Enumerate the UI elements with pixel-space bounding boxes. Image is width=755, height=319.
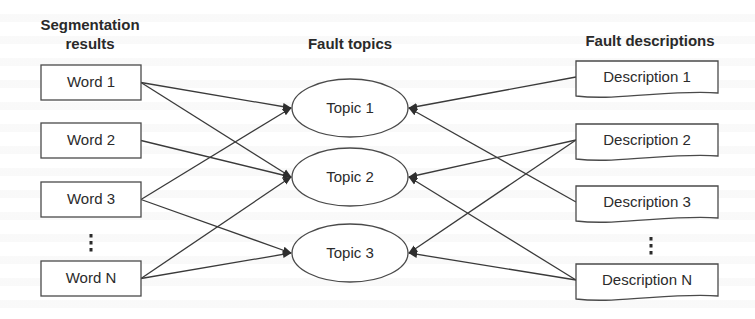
- description-node: Description 1: [576, 61, 718, 97]
- word-label: Word N: [66, 269, 117, 286]
- word-to-topic-edge: [141, 200, 291, 254]
- topic-label: Topic 2: [326, 168, 374, 185]
- description-to-topic-edge: [409, 77, 576, 108]
- topic-node: Topic 2: [292, 148, 408, 206]
- description-to-topic-edge: [409, 140, 576, 177]
- description-to-topic-edge: [409, 253, 576, 280]
- descriptions-group: Description 1Description 2Description 3D…: [576, 61, 718, 300]
- word-node: Word 3: [41, 182, 141, 217]
- word-ellipsis-icon: [90, 234, 93, 252]
- word-to-topic-edge: [141, 141, 291, 178]
- description-node: Description N: [576, 264, 718, 300]
- word-to-topic-edge: [141, 108, 291, 200]
- word-label: Word 1: [67, 73, 115, 90]
- word-node: Word 2: [41, 123, 141, 158]
- description-label: Description 2: [603, 131, 691, 148]
- topic-label: Topic 3: [326, 244, 374, 261]
- word-label: Word 2: [67, 131, 115, 148]
- word-to-topic-edge: [141, 83, 291, 178]
- description-label: Description N: [602, 271, 692, 288]
- word-to-topic-edge: [141, 177, 291, 279]
- topic-node: Topic 3: [292, 224, 408, 282]
- description-to-topic-edge: [409, 177, 576, 280]
- description-label: Description 3: [603, 193, 691, 210]
- topic-label: Topic 1: [326, 99, 374, 116]
- word-node: Word 1: [41, 65, 141, 100]
- word-to-topic-edge: [141, 83, 291, 109]
- word-node: Word N: [41, 261, 141, 296]
- description-to-topic-edge: [409, 140, 576, 253]
- description-to-topic-edge: [409, 108, 576, 202]
- topic-model-diagram: Word 1Word 2Word 3Word N Topic 1Topic 2T…: [0, 0, 755, 319]
- description-node: Description 3: [576, 186, 718, 222]
- topic-node: Topic 1: [292, 79, 408, 137]
- topics-group: Topic 1Topic 2Topic 3: [292, 79, 408, 282]
- description-node: Description 2: [576, 124, 718, 160]
- word-to-topic-edge: [141, 253, 291, 279]
- description-ellipsis-icon: [650, 237, 653, 255]
- words-group: Word 1Word 2Word 3Word N: [41, 65, 141, 296]
- word-label: Word 3: [67, 190, 115, 207]
- description-label: Description 1: [603, 68, 691, 85]
